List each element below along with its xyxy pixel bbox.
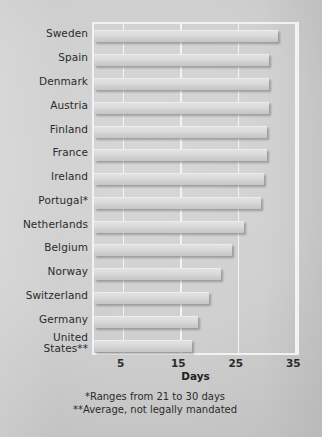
category-label: Finland — [2, 124, 88, 135]
x-tick-5: 5 — [117, 357, 124, 369]
x-tick-25: 25 — [228, 357, 243, 369]
bar — [94, 126, 267, 138]
category-label: Portugal* — [2, 195, 88, 206]
bar — [94, 173, 264, 185]
bar — [94, 268, 221, 280]
category-label: United States** — [2, 332, 88, 354]
gridline-25 — [238, 24, 240, 353]
category-axis-labels: SwedenSpainDenmarkAustriaFinlandFranceIr… — [2, 22, 88, 355]
footnote-block: *Ranges from 21 to 30 days **Average, no… — [0, 390, 310, 416]
category-label: Spain — [2, 52, 88, 63]
bar-chart: SwedenSpainDenmarkAustriaFinlandFranceIr… — [0, 0, 322, 437]
bar — [94, 292, 209, 304]
plot-area — [92, 22, 299, 355]
category-label: Sweden — [2, 28, 88, 39]
bar — [94, 340, 192, 352]
bar — [94, 221, 244, 233]
category-label: France — [2, 147, 88, 158]
category-label: Norway — [2, 266, 88, 277]
bar — [94, 316, 198, 328]
category-label: Switzerland — [2, 290, 88, 301]
footnote-two: **Average, not legally mandated — [0, 403, 310, 416]
category-label: Belgium — [2, 242, 88, 253]
bar — [94, 78, 269, 90]
category-label: Denmark — [2, 76, 88, 87]
bar — [94, 244, 232, 256]
bar — [94, 102, 269, 114]
bar — [94, 197, 261, 209]
bar — [94, 54, 269, 66]
category-label: Austria — [2, 100, 88, 111]
category-label: Ireland — [2, 171, 88, 182]
gridline-35 — [295, 24, 297, 353]
x-tick-15: 15 — [171, 357, 186, 369]
footnote-one: *Ranges from 21 to 30 days — [0, 390, 310, 403]
x-axis-title: Days — [92, 370, 299, 382]
category-label: Netherlands — [2, 219, 88, 230]
category-label: Germany — [2, 314, 88, 325]
bar — [94, 30, 278, 42]
x-tick-35: 35 — [286, 357, 301, 369]
bar — [94, 149, 267, 161]
